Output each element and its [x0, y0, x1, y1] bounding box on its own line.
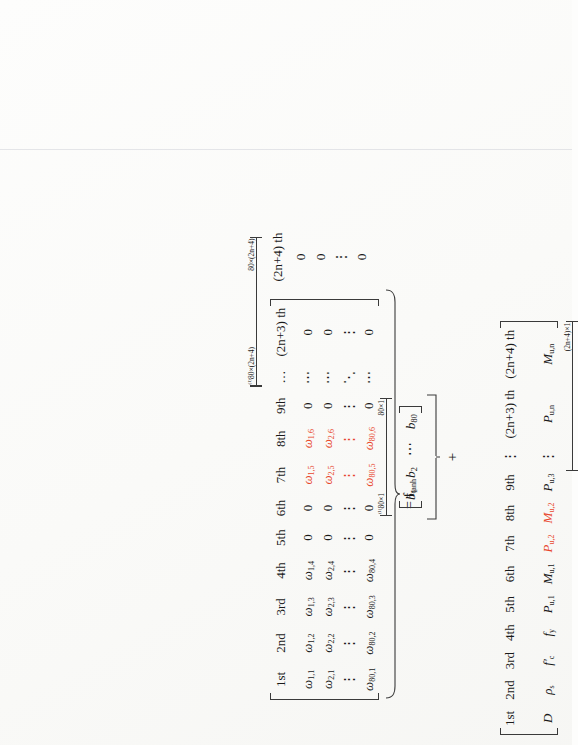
table-cell: ⋯ [361, 370, 377, 385]
bias-dim-top-label: 80×1 [377, 493, 386, 508]
input-ordinal-4th: 4th [502, 624, 540, 641]
table-cell: ω1,4 [300, 559, 316, 582]
weight-matrix-bracket: 1st 2nd 3rd 4th 5th 6th 7th 8th 9th … (2… [270, 299, 379, 700]
table-cell: 0 [300, 397, 316, 414]
input-var-Pu1: Pu,1 [540, 595, 556, 613]
bias-underbrace [427, 394, 443, 520]
input-dim-label: (2n+4)×1 [563, 323, 572, 351]
input-var-Pu2: Pu,2 [540, 534, 556, 552]
table-cell: b1 [403, 489, 419, 500]
weight-col-header-ellipsis: … [273, 370, 296, 385]
weight-col-header-9th: 9th [273, 397, 296, 414]
weight-col-header-6th: 6th [273, 500, 296, 517]
input-ordinal-8th: 8th [502, 503, 540, 524]
input-vector-bracket: 1st 2nd 3rd 4th 5th 6th 7th 8th 9th ⋮ (2… [500, 321, 558, 735]
table-cell: ω2,2 [320, 631, 336, 654]
weight-matrix-grid: 1st 2nd 3rd 4th 5th 6th 7th 8th 9th … (2… [273, 308, 377, 691]
table-cell: ω80,2 [361, 631, 377, 654]
input-vector-dimension-bar: (2n+4)×1 [566, 321, 578, 471]
table-cell: ω2,1 [320, 668, 336, 691]
input-ordinal-2n3: (2n+3) th [502, 390, 540, 439]
table-cell: 0 [320, 529, 336, 546]
table-cell: ⋯ [402, 440, 419, 456]
weight-col-header-2n4: (2n+4) th [270, 233, 293, 282]
input-vector-grid: 1st 2nd 3rd 4th 5th 6th 7th 8th 9th ⋮ (2… [502, 330, 556, 726]
table-cell: b80 [403, 414, 419, 429]
table-cell: 0 [361, 529, 377, 546]
weight-col-header-7th: 7th [273, 463, 296, 486]
table-cell: ω2,6 [320, 427, 336, 450]
weight-col-header-1st: 1st [273, 668, 296, 691]
table-cell: ⋮ [341, 559, 357, 582]
weight-dim-bottom-label: 80×(2n+4) [247, 239, 256, 271]
table-cell: ω1,5 [300, 463, 316, 486]
table-cell: 0 [320, 308, 336, 357]
table-cell: ω80,5 [361, 463, 377, 486]
input-ordinal-2nd: 2nd [502, 680, 540, 700]
input-var-fy: fy [540, 624, 556, 641]
bias-dimension-bar: (1)80×1 80×1 [380, 398, 392, 516]
bias-vector-entries: b1 b2 ⋯ b80 [402, 414, 419, 500]
input-var-rho-s: ρs [540, 680, 556, 700]
weight-dim-superscript: (1) [247, 379, 252, 384]
table-cell: 0 [293, 233, 309, 282]
scan-artifact-line [0, 149, 572, 150]
table-cell: ⋮ [341, 463, 357, 486]
input-var-Pu3: Pu,3 [540, 474, 556, 492]
bias-vector-expression: (1)80×1 80×1 b1 b2 ⋯ b80 + [380, 394, 461, 520]
input-ordinal-9th: 9th [502, 474, 540, 492]
table-cell: ⋮ [341, 397, 357, 414]
table-cell: ω2,4 [320, 559, 336, 582]
table-cell: 0 [320, 397, 336, 414]
input-ordinal-5th: 5th [502, 595, 540, 613]
input-var-Pun: Pu,n [540, 390, 556, 439]
table-cell: ω1,6 [300, 427, 316, 450]
input-var-Mun: Mu,n [540, 330, 556, 379]
table-cell: 0 [313, 233, 329, 282]
table-cell: ⋮ [341, 631, 357, 654]
input-ordinal-6th: 6th [502, 563, 540, 584]
input-var-gap: ⋮ [540, 450, 556, 463]
weight-dim-top-label: 80×(2n+4) [247, 347, 256, 379]
table-cell: 0 [300, 529, 316, 546]
table-cell: ω80,1 [361, 668, 377, 691]
table-cell: ω2,5 [320, 463, 336, 486]
bias-dim-bottom-label: 80×1 [377, 400, 386, 415]
table-cell: ω80,3 [361, 595, 377, 618]
input-ordinal-7th: 7th [502, 534, 540, 552]
bias-vector-bracket: b1 b2 ⋯ b80 [399, 406, 422, 508]
table-cell: ⋯ [300, 370, 316, 385]
weight-col-header-4th: 4th [273, 559, 296, 582]
weight-col-header-2nd: 2nd [273, 631, 296, 654]
table-cell: ⋮ [333, 233, 350, 282]
input-var-Mu1: Mu,1 [540, 563, 556, 584]
weight-matrix-dimension-bar: (1)80×(2n+4) 80×(2n+4) [250, 237, 262, 387]
table-cell: ⋮ [341, 529, 357, 546]
table-cell: ⋮ [341, 427, 357, 450]
table-cell: ω1,3 [300, 595, 316, 618]
input-ordinal-3rd: 3rd [502, 652, 540, 669]
input-var-diameter: D [540, 711, 556, 726]
table-cell: ⋮ [341, 595, 357, 618]
table-cell: b2 [403, 467, 419, 478]
table-cell: ω2,3 [320, 595, 336, 618]
table-cell: ⋱ [341, 370, 357, 385]
table-cell: ω1,2 [300, 631, 316, 654]
table-cell: 0 [361, 500, 377, 517]
input-vector-expression: 1st 2nd 3rd 4th 5th 6th 7th 8th 9th ⋮ (2… [500, 321, 578, 735]
table-cell: ω80,6 [361, 427, 377, 450]
input-ordinal-2n4: (2n+4) th [502, 330, 540, 379]
table-cell: 0 [361, 308, 377, 357]
table-cell: ⋮ [341, 668, 357, 691]
plus-operator: + [444, 394, 461, 520]
table-cell: ⋮ [341, 308, 357, 357]
table-cell: ω1,1 [300, 668, 316, 691]
bias-dim-superscript: (1) [377, 509, 382, 514]
input-ordinal-1st: 1st [502, 711, 540, 726]
weight-col-header-3rd: 3rd [273, 595, 296, 618]
table-cell: 0 [320, 500, 336, 517]
weight-col-header-5th: 5th [273, 529, 296, 546]
weight-col-header-2n3: (2n+3) th [273, 308, 296, 357]
table-cell: 0 [361, 397, 377, 414]
weight-col-header-8th: 8th [273, 427, 296, 450]
